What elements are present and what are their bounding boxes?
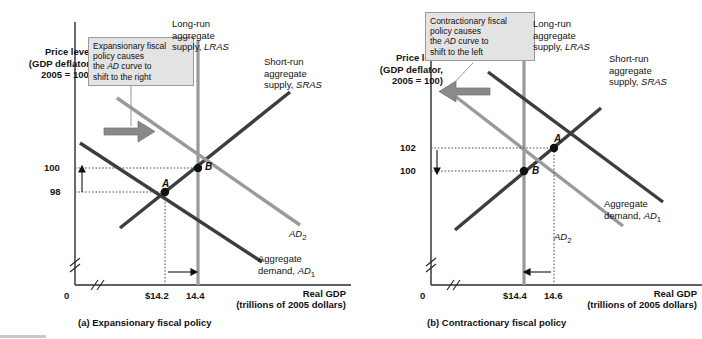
callout-line4: shift to the right bbox=[93, 72, 189, 82]
lras-label-line2: aggregate bbox=[172, 30, 262, 42]
curve-ad1-a bbox=[80, 143, 262, 262]
callout-line1: Contractionary fiscal bbox=[430, 16, 530, 26]
x-axis-title-line2: (trillions of 2005 dollars) bbox=[551, 299, 697, 310]
point-b-a bbox=[194, 164, 202, 172]
sras-label-line3: supply, SRAS bbox=[609, 76, 701, 88]
x-tick-144-b: $14.4 bbox=[503, 290, 527, 301]
sras-label-line3-pre: supply, bbox=[264, 79, 296, 90]
ad2-label-sub: 2 bbox=[302, 233, 306, 242]
x-axis-title-line2: (trillions of 2005 dollars) bbox=[200, 299, 346, 310]
point-a-a bbox=[161, 188, 169, 196]
ad1-label-line2-pre: demand, bbox=[604, 210, 644, 221]
callout-line3-pre: the bbox=[93, 61, 107, 71]
y-axis-title-line2: (GDP deflator, bbox=[6, 58, 92, 70]
callout-line2: policy causes bbox=[430, 26, 530, 36]
point-label-b-a: B bbox=[205, 161, 212, 172]
sras-label-line3-em: SRAS bbox=[641, 76, 667, 87]
x-tick-142-a: $14.2 bbox=[145, 290, 169, 301]
ad1-label-line2-sub: 1 bbox=[311, 269, 315, 278]
y-axis-title-a: Price level (GDP deflator, 2005 = 100) bbox=[6, 46, 92, 81]
point-label-a-b: A bbox=[554, 133, 561, 144]
point-a-b bbox=[550, 144, 558, 152]
guides-a bbox=[75, 168, 198, 285]
y-tick-98-a: 98 bbox=[50, 186, 61, 197]
ad2-label-em: AD bbox=[289, 228, 302, 239]
callout-contractionary: Contractionary fiscal policy causes the … bbox=[425, 12, 535, 61]
curve-label-lras-a: Long-run aggregate supply, LRAS bbox=[172, 18, 262, 53]
ad1-label-line2-pre: demand, bbox=[258, 265, 298, 276]
curve-label-ad1-b: Aggregate demand, AD1 bbox=[604, 198, 696, 225]
sras-label-line3-pre: supply, bbox=[609, 76, 641, 87]
y-axis-title-line1: Price level bbox=[6, 46, 92, 58]
shift-arrow-a bbox=[104, 121, 155, 142]
lras-label-line3: supply, LRAS bbox=[533, 41, 623, 53]
lras-label-line3-pre: supply, bbox=[172, 41, 204, 52]
curve-label-ad2-b: AD2 bbox=[554, 231, 572, 246]
y-tick-102-b: 102 bbox=[400, 142, 416, 153]
curve-sras-b bbox=[455, 108, 601, 230]
panel-expansionary: Price level (GDP deflator, 2005 = 100) 1… bbox=[0, 0, 351, 339]
shift-arrow-b bbox=[439, 81, 490, 102]
callout-line3: the AD curve to bbox=[93, 61, 189, 71]
lras-label-line2: aggregate bbox=[533, 30, 623, 42]
callout-line3-post: curve to bbox=[456, 36, 489, 46]
y-axis-title-line3: 2005 = 100) bbox=[351, 75, 443, 87]
lras-label-line1: Long-run bbox=[533, 18, 623, 30]
sras-label-line1: Short-run bbox=[264, 56, 356, 68]
x-axis-title-line1: Real GDP bbox=[200, 288, 346, 299]
y-tick-100-a: 100 bbox=[44, 162, 60, 173]
curve-label-sras-a: Short-run aggregate supply, SRAS bbox=[264, 56, 356, 91]
panel-b-caption: (b) Contractionary fiscal policy bbox=[427, 317, 566, 328]
lras-label-line3-pre: supply, bbox=[533, 41, 565, 52]
sras-label-line2: aggregate bbox=[264, 68, 356, 80]
y-tick-100-b: 100 bbox=[400, 165, 416, 176]
origin-label-a: 0 bbox=[64, 290, 69, 301]
lras-label-line3-em: LRAS bbox=[565, 41, 590, 52]
panel-contractionary: Price level (GDP deflator, 2005 = 100) 1… bbox=[351, 0, 702, 339]
ad1-label-line2-em: AD bbox=[298, 265, 311, 276]
point-label-a-a: A bbox=[162, 178, 169, 189]
sras-label-line1: Short-run bbox=[609, 53, 701, 65]
ad2-label-sub: 2 bbox=[567, 236, 571, 245]
callout-line2: policy causes bbox=[93, 51, 189, 61]
curve-label-lras-b: Long-run aggregate supply, LRAS bbox=[533, 18, 623, 53]
callout-line3-pre: the bbox=[430, 36, 444, 46]
lras-label-line1: Long-run bbox=[172, 18, 262, 30]
callout-leader-b bbox=[451, 63, 473, 86]
x-axis-title-line1: Real GDP bbox=[551, 288, 697, 299]
y-axis-title-line2: (GDP deflator, bbox=[351, 64, 443, 76]
point-label-b-b: B bbox=[532, 165, 539, 176]
point-b-b bbox=[520, 167, 528, 175]
x-axis-title-b: Real GDP (trillions of 2005 dollars) bbox=[551, 288, 697, 310]
callout-line4: shift to the left bbox=[430, 47, 530, 57]
y-axis-title-line3: 2005 = 100) bbox=[6, 69, 92, 81]
ad1-label-line2: demand, AD1 bbox=[604, 210, 696, 225]
sras-label-line3: supply, SRAS bbox=[264, 79, 356, 91]
curve-label-sras-b: Short-run aggregate supply, SRAS bbox=[609, 53, 701, 88]
ad1-label-line1: Aggregate bbox=[604, 198, 696, 210]
callout-line3-em: AD bbox=[107, 61, 119, 71]
panel-a-caption: (a) Expansionary fiscal policy bbox=[78, 317, 212, 328]
x-axis-title-a: Real GDP (trillions of 2005 dollars) bbox=[200, 288, 346, 310]
curve-label-ad1-a: Aggregate demand, AD1 bbox=[258, 253, 350, 280]
callout-line3-em: AD bbox=[444, 36, 456, 46]
curve-label-ad2-a: AD2 bbox=[289, 228, 307, 243]
callout-line3: the AD curve to bbox=[430, 36, 530, 46]
ad1-label-line2-sub: 1 bbox=[657, 214, 661, 223]
ad1-label-line2: demand, AD1 bbox=[258, 265, 350, 280]
ad1-label-line2-em: AD bbox=[644, 210, 657, 221]
ad1-label-line1: Aggregate bbox=[258, 253, 350, 265]
origin-label-b: 0 bbox=[420, 290, 425, 301]
callout-line3-post: curve to bbox=[119, 61, 152, 71]
sras-label-line2: aggregate bbox=[609, 65, 701, 77]
footer-rule bbox=[0, 335, 46, 338]
lras-label-line3: supply, LRAS bbox=[172, 41, 262, 53]
lras-label-line3-em: LRAS bbox=[204, 41, 229, 52]
ad2-label-em: AD bbox=[554, 231, 567, 242]
sras-label-line3-em: SRAS bbox=[296, 79, 322, 90]
